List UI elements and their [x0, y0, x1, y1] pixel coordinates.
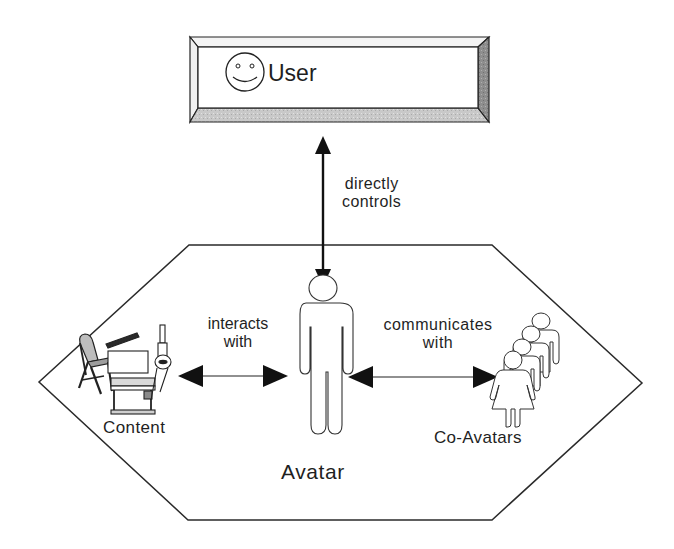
- avatar-figure-icon: [300, 275, 353, 434]
- edge-label-line-1: directly: [342, 175, 401, 193]
- node-label-avatar: Avatar: [281, 460, 345, 484]
- edge-label-interacts-with: interacts with: [192, 315, 284, 351]
- smiley-face-icon: [226, 53, 264, 91]
- chair-icon: [79, 334, 112, 394]
- arrow-interacts-with: [178, 365, 288, 387]
- edge-label-line-1: communicates: [360, 316, 516, 334]
- projector-screen-icon: [106, 333, 148, 373]
- node-label-content: Content: [103, 418, 165, 437]
- edge-label-line-2: controls: [342, 193, 401, 211]
- edge-label-line-2: with: [360, 334, 516, 352]
- desk-icon: [111, 378, 155, 414]
- content-objects-icon: [79, 325, 171, 414]
- arrow-communicates-with: [348, 366, 498, 388]
- user-label: User: [268, 61, 317, 87]
- user-box-bevel-top: [190, 37, 489, 47]
- user-box-bevel-right: [478, 37, 489, 122]
- user-box: [190, 37, 489, 122]
- user-box-bevel-bottom: [190, 108, 489, 122]
- edge-label-communicates-with: communicates with: [360, 316, 516, 352]
- edge-label-directly-controls: directly controls: [342, 175, 401, 211]
- node-label-co-avatars: Co-Avatars: [434, 428, 522, 447]
- arrow-directly-controls: [315, 136, 331, 287]
- edge-label-line-1: interacts: [192, 315, 284, 333]
- edge-label-line-2: with: [192, 333, 284, 351]
